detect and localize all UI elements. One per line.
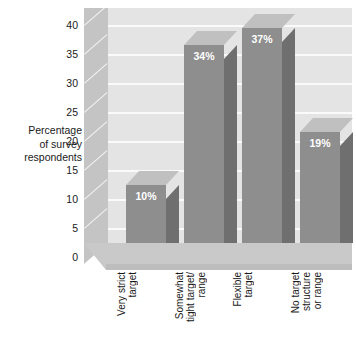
bar-side-face [224,45,237,243]
bar-very-strict-target: 10% [126,185,166,243]
y-tick-label-30: 30 [56,78,78,89]
y-axis-title-line-3: respondents [4,151,82,165]
bar-no-target-structure-or-range: 19% [300,132,340,243]
bar-value-label: 19% [300,137,340,149]
y-tick-label-5: 5 [56,223,78,234]
x-label-line: tight target/ [185,272,196,322]
y-tick-label-0: 0 [56,252,78,263]
wall-gridline [84,63,107,83]
y-tick-label-20: 20 [56,136,78,147]
wall-gridline [84,121,107,141]
x-label-line: No target [290,272,301,313]
x-label-very-strict-target: Very strict target [116,272,138,344]
bar-side-face [340,132,353,243]
bar-front-face [242,28,282,243]
y-tick-label-10: 10 [56,194,78,205]
bar-side-face [282,28,295,243]
x-label-line: Very strict [116,272,127,316]
x-label-line: or range [312,272,323,309]
bar-somewhat-tight-target-range: 34% [184,45,224,243]
plot-left-wall [84,8,108,264]
bar-top-face [184,31,237,46]
wall-gridline [84,208,107,228]
bar-top-face [300,118,353,133]
x-label-line: range [196,272,207,298]
x-label-no-target-structure-or-range: No target structure or range [290,272,323,344]
bar-series: 10% 34% 37% 19% [108,8,352,243]
bar-top-face [126,171,179,186]
bar-value-label: 34% [184,50,224,62]
y-tick-label-40: 40 [56,20,78,31]
wall-gridline [84,150,107,170]
x-label-somewhat-tight-target-range: Somewhat tight target/ range [174,272,207,344]
x-label-line: structure [301,272,312,311]
wall-gridline [84,179,107,199]
plot-area: 10% 34% 37% 19% [84,8,352,270]
bar-value-label: 37% [242,33,282,45]
bar-top-face [242,14,295,29]
y-tick-label-15: 15 [56,165,78,176]
bar-flexible-target: 37% [242,28,282,243]
wall-gridline [84,34,107,54]
y-tick-label-25: 25 [56,107,78,118]
bar-chart: Percentage of survey respondents 40 35 3… [0,0,356,344]
plot-floor-front [106,264,352,270]
x-axis-labels: Very strict target Somewhat tight target… [84,272,352,344]
bar-front-face [184,45,224,243]
x-label-flexible-target: Flexible target [232,272,254,344]
y-tick-label-35: 35 [56,49,78,60]
x-label-line: target [243,272,254,298]
x-label-line: target [127,272,138,298]
bar-side-face [166,185,179,243]
x-label-line: Somewhat [174,272,185,319]
wall-gridline [84,5,107,25]
wall-gridline [84,92,107,112]
x-label-line: Flexible [232,272,243,306]
bar-value-label: 10% [126,190,166,202]
